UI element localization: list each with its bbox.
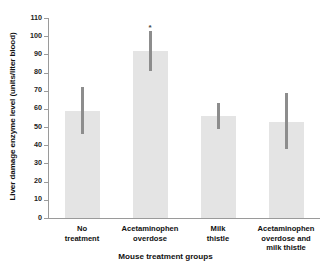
- y-axis-title: Liver damage enzyme level (units/liter b…: [8, 12, 17, 222]
- y-axis-tick-label: 30: [34, 158, 42, 167]
- error-bar: [81, 87, 84, 134]
- y-axis-tick-label: 70: [34, 85, 42, 94]
- error-bar: [217, 103, 220, 128]
- plot-area: 0102030405060708090100110 * NotreatmentA…: [48, 18, 320, 218]
- y-axis-tick-mark: [44, 54, 48, 55]
- x-axis-tick-label: Notreatment: [48, 224, 116, 243]
- y-axis-tick-mark: [44, 91, 48, 92]
- error-bar: [285, 93, 288, 149]
- y-axis-tick-label: 100: [30, 31, 42, 40]
- y-axis-tick-label: 40: [34, 140, 42, 149]
- y-axis-tick-label: 10: [34, 194, 42, 203]
- y-axis-tick-mark: [44, 109, 48, 110]
- y-axis-tick-label: 80: [34, 67, 42, 76]
- y-axis-tick-label: 60: [34, 103, 42, 112]
- bar-item[interactable]: [65, 18, 100, 218]
- x-axis-title: Mouse treatment groups: [0, 252, 331, 261]
- error-bar: [149, 31, 152, 71]
- y-axis-tick-mark: [44, 163, 48, 164]
- bar-rect[interactable]: [201, 116, 236, 218]
- significance-marker: *: [140, 25, 160, 31]
- x-axis-tick-label: Acetaminophenoverdose andmilk thistle: [252, 224, 320, 253]
- bar-item[interactable]: [269, 18, 304, 218]
- y-axis-tick-label: 90: [34, 49, 42, 58]
- bar-item[interactable]: [133, 18, 168, 218]
- bar-chart-figure: Liver damage enzyme level (units/liter b…: [0, 0, 331, 271]
- x-axis-line: [48, 218, 320, 219]
- y-axis-tick-mark: [44, 36, 48, 37]
- x-axis-tick-label: Acetaminophenoverdose: [116, 224, 184, 243]
- y-axis-tick-mark: [44, 200, 48, 201]
- y-axis-tick-mark: [44, 73, 48, 74]
- y-axis-tick-label: 0: [38, 213, 42, 222]
- y-axis-tick-mark: [44, 127, 48, 128]
- bar-item[interactable]: [201, 18, 236, 218]
- y-axis-tick-label: 50: [34, 122, 42, 131]
- y-axis-line: [48, 18, 49, 218]
- y-axis-tick-label: 110: [30, 13, 42, 22]
- y-axis-tick-mark: [44, 218, 48, 219]
- y-axis-tick-mark: [44, 182, 48, 183]
- y-axis-tick-mark: [44, 145, 48, 146]
- bar-rect[interactable]: [133, 51, 168, 218]
- x-axis-tick-label: Milkthistle: [184, 224, 252, 243]
- y-axis-tick-mark: [44, 18, 48, 19]
- y-axis-tick-label: 20: [34, 176, 42, 185]
